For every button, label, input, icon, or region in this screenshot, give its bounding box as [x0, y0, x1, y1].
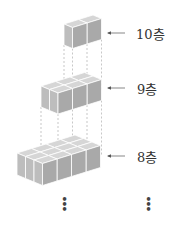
cube-left-face: [50, 90, 59, 115]
cube-front-face: [73, 23, 88, 49]
cube-front-face: [72, 150, 87, 177]
cube-front-face: [57, 155, 72, 182]
arrow-head-icon: [107, 86, 111, 90]
arrow-head-icon: [107, 31, 111, 35]
floor-label-10: 10층: [136, 24, 165, 43]
cube-front-face: [86, 146, 101, 173]
floor-label-9: 9층: [137, 79, 157, 98]
cube-left-face: [26, 157, 35, 183]
cube-front-face: [87, 19, 102, 45]
continuation-dots-right: •••: [145, 198, 151, 213]
cube-front-face: [43, 159, 58, 186]
cube-left-face: [34, 160, 43, 186]
cube-front-face: [73, 84, 88, 110]
cube-left-face: [41, 86, 50, 111]
cube-left-face: [17, 153, 26, 179]
cube-front-face: [87, 80, 102, 106]
floor-label-8: 8층: [137, 147, 157, 166]
arrow-head-icon: [107, 154, 111, 158]
cube-stack-diagram: 10층 9층 8층 ••• •••: [0, 0, 173, 234]
cube-left-face: [64, 24, 73, 49]
cube-front-face: [58, 89, 73, 115]
continuation-dots-left: •••: [61, 198, 67, 213]
